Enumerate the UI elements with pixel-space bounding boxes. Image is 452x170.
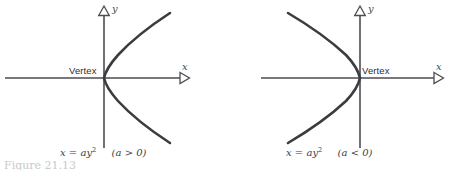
figure-container: y x Vertex x = ay2 (a > 0) y x Vertex x … bbox=[0, 0, 452, 170]
equation-equals: = bbox=[69, 147, 77, 158]
y-axis-label: y bbox=[112, 4, 118, 14]
equation-condition: (a < 0) bbox=[338, 147, 373, 158]
equation-label-positive-a: x = ay2 (a > 0) bbox=[60, 147, 146, 158]
equation-exponent: 2 bbox=[92, 146, 96, 154]
y-axis-arrow-icon bbox=[355, 6, 366, 16]
x-axis-arrow-icon bbox=[180, 73, 190, 84]
parabola-panel-positive-a: y x Vertex x = ay2 (a > 0) bbox=[0, 0, 226, 170]
parabola-plot-right bbox=[226, 0, 452, 170]
parabola-panel-negative-a: y x Vertex x = ay2 (a < 0) bbox=[226, 0, 452, 170]
equation-condition: (a > 0) bbox=[112, 147, 147, 158]
equation-exponent: 2 bbox=[318, 146, 322, 154]
x-axis-label: x bbox=[182, 62, 188, 72]
x-axis-arrow-icon bbox=[434, 73, 444, 84]
equation-equals: = bbox=[295, 147, 303, 158]
vertex-label: Vertex bbox=[362, 66, 390, 76]
y-axis-label: y bbox=[368, 4, 374, 14]
y-axis-arrow-icon bbox=[99, 6, 110, 16]
equation-lhs: x bbox=[286, 147, 292, 158]
equation-lhs: x bbox=[60, 147, 66, 158]
equation-label-negative-a: x = ay2 (a < 0) bbox=[286, 147, 372, 158]
parabola-plot-left bbox=[0, 0, 226, 170]
x-axis-label: x bbox=[436, 62, 442, 72]
figure-caption: Figure 21.13 bbox=[4, 160, 76, 170]
vertex-label: Vertex bbox=[69, 66, 97, 76]
